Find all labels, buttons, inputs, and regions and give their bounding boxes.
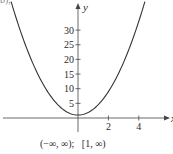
y-tick-label: 10 — [64, 83, 74, 94]
y-arrow-icon — [76, 3, 81, 9]
y-tick-label: 20 — [64, 54, 74, 65]
y-tick-label: 5 — [69, 98, 74, 109]
x-tick-label: 2 — [106, 121, 111, 132]
domain-range-caption: (−∞, ∞); [1, ∞) — [40, 138, 106, 149]
y-tick-label: 30 — [64, 25, 74, 36]
chart: 2451015202530 x y — [0, 0, 173, 154]
ticks: 2451015202530 — [64, 25, 141, 132]
x-axis-label: x — [170, 112, 173, 124]
y-tick-label: 25 — [64, 39, 74, 50]
x-tick-label: 4 — [136, 121, 141, 132]
y-axis-label: y — [82, 1, 88, 13]
y-tick-label: 15 — [64, 69, 74, 80]
x-arrow-icon — [164, 116, 170, 121]
